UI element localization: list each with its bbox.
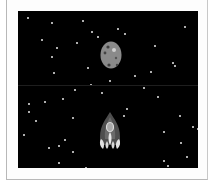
- star: [150, 71, 152, 73]
- star: [76, 42, 78, 44]
- star: [143, 87, 145, 89]
- star: [167, 165, 169, 167]
- star: [74, 89, 76, 91]
- star: [117, 28, 119, 30]
- star: [192, 126, 194, 128]
- star: [172, 62, 174, 64]
- star: [27, 17, 29, 19]
- star: [126, 108, 128, 110]
- star: [62, 98, 64, 100]
- star: [28, 111, 30, 113]
- star: [87, 67, 89, 69]
- star: [44, 101, 46, 103]
- spaceship-player-icon: [98, 111, 122, 151]
- star: [85, 167, 87, 168]
- star: [51, 22, 53, 24]
- star: [64, 139, 66, 141]
- star: [58, 145, 60, 147]
- star: [123, 115, 125, 117]
- star: [109, 80, 111, 82]
- star: [180, 142, 182, 144]
- star: [72, 151, 74, 153]
- star: [124, 33, 126, 35]
- star: [186, 156, 188, 158]
- star: [157, 96, 159, 98]
- star: [91, 31, 93, 33]
- game-canvas[interactable]: [18, 11, 198, 168]
- star: [154, 45, 156, 47]
- star: [179, 115, 181, 117]
- star: [197, 128, 198, 130]
- star: [53, 72, 55, 74]
- star: [51, 56, 53, 58]
- star: [23, 134, 25, 136]
- star: [56, 47, 58, 49]
- star: [41, 39, 43, 41]
- star: [174, 65, 176, 67]
- star: [97, 36, 99, 38]
- star: [72, 117, 74, 119]
- star: [163, 160, 165, 162]
- star: [48, 147, 50, 149]
- star: [58, 162, 60, 164]
- star: [28, 103, 30, 105]
- star: [35, 120, 37, 122]
- asteroid-icon: [100, 41, 122, 69]
- star: [184, 26, 186, 28]
- scanline-artifact: [18, 85, 198, 86]
- star: [163, 131, 165, 133]
- star: [101, 92, 103, 94]
- star: [134, 75, 136, 77]
- star: [82, 20, 84, 22]
